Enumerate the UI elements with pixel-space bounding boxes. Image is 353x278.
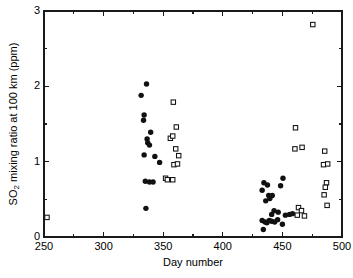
data-point-filled	[265, 182, 270, 187]
data-point-open	[165, 178, 169, 182]
data-point-open	[174, 147, 178, 151]
data-point-filled	[157, 160, 162, 165]
data-point-open	[325, 203, 329, 207]
data-point-filled	[138, 93, 143, 98]
x-axis-title: Day number	[163, 256, 223, 268]
data-point-filled	[141, 118, 146, 123]
data-point-open	[171, 134, 175, 138]
data-point-filled	[144, 81, 149, 86]
axis-ticks	[44, 11, 342, 237]
data-point-filled	[263, 198, 268, 203]
data-point-open	[299, 208, 303, 212]
data-point-open	[175, 162, 179, 166]
data-point-filled	[280, 221, 285, 226]
data-point-filled	[141, 152, 146, 157]
data-point-open	[171, 178, 175, 182]
data-point-filled	[143, 206, 148, 211]
x-tick-label: 300	[94, 240, 112, 252]
x-tick-label: 400	[214, 240, 232, 252]
data-point-open	[293, 147, 297, 151]
data-point-filled	[275, 217, 280, 222]
chart-figure: 2503003504004505000123 Day numberSO2 mix…	[0, 0, 353, 278]
data-point-open	[174, 125, 178, 129]
data-point-filled	[147, 142, 152, 147]
data-point-filled	[261, 227, 266, 232]
data-point-open	[322, 193, 326, 197]
data-point-filled	[278, 183, 283, 188]
data-point-filled	[280, 176, 285, 181]
data-point-open	[293, 126, 297, 130]
data-point-open	[324, 181, 328, 185]
scatter-plot-canvas: 2503003504004505000123 Day numberSO2 mix…	[0, 0, 353, 278]
data-point-open	[323, 185, 327, 189]
data-point-filled	[276, 209, 281, 214]
data-point-open	[302, 214, 306, 218]
x-tick-label: 500	[333, 240, 351, 252]
series-open-squares	[45, 22, 330, 219]
x-tick-label: 450	[273, 240, 291, 252]
data-point-filled	[150, 179, 155, 184]
x-tick-label: 350	[154, 240, 172, 252]
data-point-open	[311, 22, 315, 26]
data-point-filled	[152, 154, 157, 159]
y-tick-label: 1	[34, 155, 40, 167]
plot-axes	[44, 11, 342, 237]
data-point-open	[295, 213, 299, 217]
data-point-filled	[148, 130, 153, 135]
data-point-filled	[269, 212, 274, 217]
data-point-open	[300, 145, 304, 149]
y-axis-title: SO2 mixing ratio at 100 km (ppm)	[7, 43, 21, 206]
data-point-open	[171, 100, 175, 104]
y-tick-label: 2	[34, 79, 40, 91]
y-tick-label: 3	[34, 4, 40, 16]
data-point-open	[45, 215, 49, 219]
data-point-open	[177, 153, 181, 157]
data-point-open	[326, 162, 330, 166]
data-point-open	[323, 149, 327, 153]
data-points	[45, 22, 330, 232]
y-tick-label: 0	[34, 230, 40, 242]
data-point-filled	[141, 112, 146, 117]
data-point-filled	[290, 211, 295, 216]
data-point-filled	[259, 188, 264, 193]
series-filled-circles	[138, 81, 295, 232]
